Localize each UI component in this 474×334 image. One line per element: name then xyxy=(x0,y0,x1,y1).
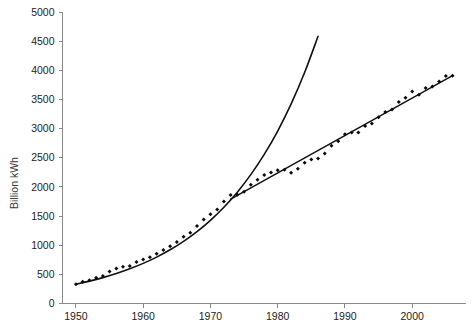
data-point xyxy=(296,167,300,171)
y-tick-label: 3000 xyxy=(31,122,55,134)
x-tick-label: 1980 xyxy=(266,310,290,322)
data-point xyxy=(262,173,266,177)
data-point xyxy=(202,217,206,221)
data-point xyxy=(182,235,186,239)
y-tick-label: 2000 xyxy=(31,181,55,193)
x-tick-label: 1960 xyxy=(132,310,156,322)
data-point xyxy=(155,252,159,256)
data-point xyxy=(148,255,152,259)
x-tick-label: 1990 xyxy=(333,310,357,322)
y-tick-label: 1500 xyxy=(31,210,55,222)
data-point xyxy=(222,199,226,203)
data-point xyxy=(269,171,273,175)
y-tick-label: 0 xyxy=(49,297,55,309)
x-tick-label: 1950 xyxy=(64,310,88,322)
data-point xyxy=(323,152,327,156)
y-axis-title: Billion kWh xyxy=(8,157,20,209)
data-point xyxy=(74,282,78,286)
data-point xyxy=(356,130,360,134)
exponential-trend-line xyxy=(76,36,318,284)
x-tick-label: 1970 xyxy=(199,310,223,322)
data-point xyxy=(188,231,192,235)
y-tick-label: 500 xyxy=(37,268,55,280)
data-point xyxy=(175,240,179,244)
data-point xyxy=(397,100,401,104)
data-point xyxy=(256,178,260,182)
data-point xyxy=(410,89,414,93)
chart-plot-area: Billion kWh 0500100015002000250030003500… xyxy=(0,0,474,334)
data-point xyxy=(128,264,132,268)
data-point xyxy=(289,171,293,175)
y-tick-label: 1000 xyxy=(31,239,55,251)
y-tick-label: 4000 xyxy=(31,64,55,76)
data-point xyxy=(309,158,313,162)
data-point xyxy=(195,224,199,228)
data-point xyxy=(316,157,320,161)
y-tick-label: 2500 xyxy=(31,151,55,163)
x-tick-label: 2000 xyxy=(401,310,425,322)
data-point xyxy=(141,258,145,262)
data-point xyxy=(249,183,253,187)
data-point xyxy=(208,212,212,216)
data-point xyxy=(114,266,118,270)
chart-container: Billion kWh 0500100015002000250030003500… xyxy=(0,0,474,334)
y-tick-label: 3500 xyxy=(31,93,55,105)
data-point xyxy=(168,244,172,248)
data-point xyxy=(215,207,219,211)
data-point xyxy=(134,260,138,264)
data-point xyxy=(161,248,165,252)
y-axis-ticks: 0500100015002000250030003500400045005000 xyxy=(31,6,62,310)
data-point xyxy=(108,270,112,274)
data-point xyxy=(303,161,307,165)
data-point xyxy=(444,74,448,78)
data-point xyxy=(121,265,125,269)
y-tick-label: 4500 xyxy=(31,35,55,47)
data-point xyxy=(229,193,233,197)
data-point xyxy=(403,96,407,100)
x-axis-ticks: 195019601970198019902000 xyxy=(64,304,424,322)
y-tick-label: 5000 xyxy=(31,6,55,18)
